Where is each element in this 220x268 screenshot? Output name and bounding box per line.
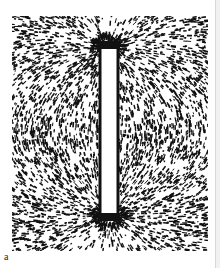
panel-label: a (4, 251, 8, 262)
page-edge (215, 0, 220, 268)
iron-filings-pattern (12, 16, 208, 251)
magnetic-field-figure (12, 16, 208, 251)
